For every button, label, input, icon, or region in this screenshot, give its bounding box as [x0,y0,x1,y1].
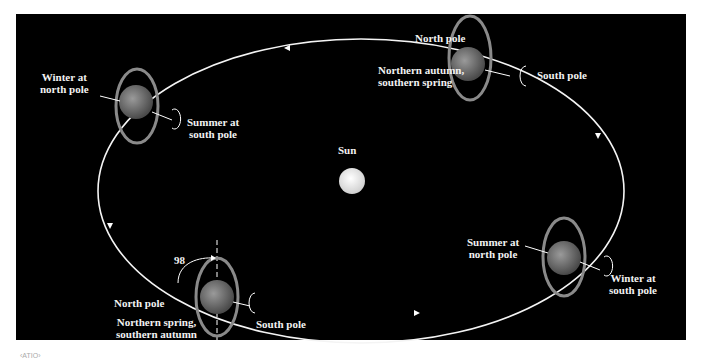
label-line: Winter at [40,71,89,83]
label-top-season: Northern autumn, southern spring [378,64,464,88]
label-right-south: Winter at south pole [609,272,657,296]
label-line: south pole [187,128,239,140]
rotation-arrow-icon [172,109,181,129]
label-line: Summer at [467,236,519,248]
sun [339,168,365,194]
label-bottom-season: Northern spring, southern autumn [116,316,197,340]
label-top-south: South pole [537,69,587,81]
label-line: Northern spring, [116,316,197,328]
label-bottom-south: South pole [256,318,306,330]
orbit-arrow-icon [414,310,420,316]
label-left-south: Summer at south pole [187,116,239,140]
label-line: southern spring [378,76,464,88]
rotation-arrow-icon-top [520,66,526,86]
label-line: north pole [40,83,89,95]
planet-top [178,0,526,100]
label-tilt-angle: 98 [174,254,185,266]
label-line: southern autumn [116,328,197,340]
label-sun: Sun [338,144,356,156]
label-line: south pole [609,284,657,296]
label-line: Winter at [609,272,657,284]
label-line: Northern autumn, [378,64,464,76]
planet-left [100,69,181,143]
orbit-arrow-icon [595,133,601,139]
label-left-north: Winter at north pole [40,71,89,95]
label-line: Summer at [187,116,239,128]
label-bottom-north: North pole [114,297,164,309]
orbit-path [98,39,624,343]
rotation-arrow-icon [249,293,255,313]
label-right-north: Summer at north pole [467,236,519,260]
figure-footer: ‹ATIO› [20,352,40,359]
label-top-north: North pole [415,32,465,44]
orbit-diagram [0,0,703,363]
orbit-arrow-icon [107,223,113,229]
label-line: north pole [467,248,519,260]
